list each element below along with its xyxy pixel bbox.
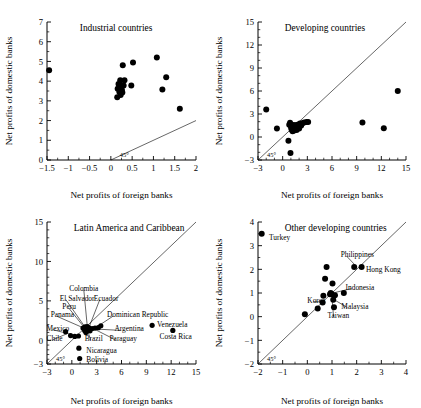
x-tick-label: 3 <box>95 367 99 377</box>
figure-container: −1.5−1−0.500.511.520123456745°Industrial… <box>0 0 421 408</box>
panel-developing-countries: −303691215−30369121545°Developing countr… <box>210 0 421 202</box>
x-tick-label: 0.5 <box>127 163 138 173</box>
x-tick-label: 0 <box>281 163 285 173</box>
data-point[interactable] <box>315 305 321 311</box>
data-point[interactable] <box>263 106 269 112</box>
data-point[interactable] <box>130 59 136 65</box>
x-tick-label: −1 <box>64 163 73 173</box>
data-point[interactable] <box>150 323 155 328</box>
point-label: Costa Rica <box>160 332 193 341</box>
data-point[interactable] <box>351 264 357 270</box>
x-tick-label: 15 <box>192 367 201 377</box>
y-tick-label: 7 <box>39 17 44 27</box>
data-point[interactable] <box>359 119 365 125</box>
data-point[interactable] <box>274 126 280 132</box>
x-axis-ticks: −1.5−1−0.500.511.52 <box>39 156 198 173</box>
y-tick-label: 9 <box>250 63 254 73</box>
point-label: Hong Kong <box>366 265 401 274</box>
data-point[interactable] <box>76 346 81 351</box>
y-axis-ticks: 01234567 <box>39 17 51 165</box>
data-point[interactable] <box>395 88 401 94</box>
data-point[interactable] <box>359 264 365 270</box>
data-point[interactable] <box>163 74 169 80</box>
x-tick-label: 2 <box>355 367 359 377</box>
data-point[interactable] <box>76 333 81 338</box>
y-tick-label: −1 <box>245 336 254 346</box>
y-tick-label: −3 <box>245 155 254 165</box>
data-point[interactable] <box>305 119 311 125</box>
data-point[interactable] <box>120 62 126 68</box>
point-labels: ColombiaEl SalvadorEcuadorPeruPanamaDomi… <box>47 284 193 364</box>
x-axis-title: Net profits of foreign banks <box>70 396 172 406</box>
data-point[interactable] <box>177 106 183 112</box>
reference-line-label: 45° <box>120 151 129 158</box>
x-tick-label: 6 <box>119 367 124 377</box>
x-tick-label: 1 <box>151 163 155 173</box>
point-label: Chile <box>47 334 64 343</box>
y-tick-label: −3 <box>34 359 43 369</box>
x-tick-label: −2 <box>253 367 262 377</box>
reference-line-label: 45° <box>267 151 276 158</box>
y-tick-label: 3 <box>39 96 43 106</box>
data-point[interactable] <box>329 281 335 287</box>
data-point[interactable] <box>322 276 328 282</box>
point-label: Bolivia <box>86 355 108 364</box>
panel-title: Other developing countries <box>285 223 387 233</box>
x-axis-title: Net profits of foreign banks <box>281 190 383 200</box>
point-label: Philippines <box>341 250 374 259</box>
y-axis-title: Net profits of domestic banks <box>214 238 224 347</box>
y-tick-label: 0 <box>39 336 43 346</box>
x-tick-label: 0 <box>109 163 113 173</box>
y-tick-label: 0 <box>250 132 254 142</box>
x-tick-label: 0 <box>70 367 74 377</box>
point-label: Dominican Republic <box>107 310 169 319</box>
point-label: Mexico <box>47 324 70 333</box>
x-tick-label: 9 <box>144 367 148 377</box>
y-tick-label: 3 <box>250 241 254 251</box>
y-tick-label: 1 <box>39 135 43 145</box>
data-point[interactable] <box>287 150 293 156</box>
y-axis-title: Net profits of domestic banks <box>4 238 14 347</box>
y-tick-label: 3 <box>250 109 254 119</box>
x-tick-label: −3 <box>42 367 51 377</box>
x-tick-label: 2 <box>194 163 198 173</box>
y-tick-label: 0 <box>39 155 43 165</box>
point-label: Nicaragua <box>86 346 117 355</box>
data-point[interactable] <box>98 323 103 328</box>
data-point[interactable] <box>331 304 337 310</box>
data-point[interactable] <box>154 54 160 60</box>
y-tick-label: 6 <box>39 37 44 47</box>
data-point[interactable] <box>128 82 134 88</box>
reference-line-label: 45° <box>267 355 276 362</box>
data-point[interactable] <box>302 311 308 317</box>
data-point[interactable] <box>159 86 165 92</box>
point-label: Indonesia <box>346 283 375 292</box>
data-point[interactable] <box>46 67 52 73</box>
data-point[interactable] <box>77 356 82 361</box>
x-tick-label: 12 <box>167 367 176 377</box>
data-point[interactable] <box>114 94 120 100</box>
y-axis-title: Net profits of domestic banks <box>214 36 224 145</box>
y-tick-label: 15 <box>245 17 254 27</box>
chart-other-developing-countries: −2−101234−2−10123445°Other developing co… <box>210 202 421 408</box>
point-label: Panama <box>51 310 75 319</box>
data-point[interactable] <box>259 231 265 237</box>
x-tick-label: −3 <box>253 163 262 173</box>
y-tick-label: 1 <box>250 288 254 298</box>
panel-other-developing-countries: −2−101234−2−10123445°Other developing co… <box>210 202 421 408</box>
y-tick-label: 6 <box>250 86 255 96</box>
x-tick-label: −0.5 <box>82 163 98 173</box>
y-axis-ticks: −2−101234 <box>245 217 262 369</box>
panel-title: Latin America and Caribbean <box>74 223 185 233</box>
data-point[interactable] <box>381 125 387 131</box>
data-point[interactable] <box>324 264 330 270</box>
data-point[interactable] <box>285 138 291 144</box>
identity-reference-line <box>258 22 406 160</box>
panel-latin-america-and-caribbean: −303691215−305101545°Latin America and C… <box>0 202 210 408</box>
data-point[interactable] <box>332 292 338 298</box>
point-label: Paraguay <box>109 334 137 343</box>
data-point[interactable] <box>121 77 127 83</box>
x-tick-label: 1.5 <box>169 163 180 173</box>
x-tick-label: 3 <box>305 163 309 173</box>
chart-developing-countries: −303691215−30369121545°Developing countr… <box>210 0 421 202</box>
